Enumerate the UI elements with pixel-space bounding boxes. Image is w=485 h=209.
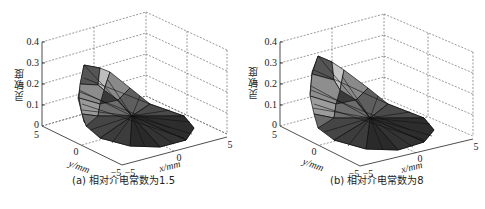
caption-a: (a) 相对介电常数为1.5 — [72, 172, 175, 187]
z-tick: 0.3 — [265, 57, 278, 68]
z-tick: 0.2 — [27, 78, 40, 89]
sensitivity-surface — [310, 56, 434, 150]
z-tick: 0.1 — [265, 99, 278, 110]
y-tick: 5 — [34, 129, 39, 140]
y-tick: 0 — [312, 146, 317, 157]
chart-panel-a: 0.4 0.3 0.2 0.1 0 5 0 −5 −5 0 5 y/mm x/m… — [0, 0, 242, 209]
z-tick: 0.4 — [27, 36, 40, 47]
z-tick: 0.1 — [27, 99, 40, 110]
z-axis-label: 灵敏度 — [12, 68, 27, 101]
z-axis-label: 灵敏度 — [246, 66, 261, 99]
x-tick: 5 — [228, 139, 233, 150]
x-tick: 5 — [474, 141, 479, 152]
chart-panel-b: 0.4 0.3 0.2 0.1 0 5 0 −5 −5 0 5 y/mm x/m… — [238, 0, 480, 209]
y-axis-label: y/mm — [300, 155, 325, 173]
z-tick: 0.3 — [27, 57, 40, 68]
y-tick: 0 — [74, 146, 79, 157]
caption-b: (b) 相对介电常数为8 — [330, 172, 424, 187]
sensitivity-surface — [78, 65, 194, 147]
z-tick: 0.4 — [265, 36, 278, 47]
z-tick: 0.2 — [265, 78, 278, 89]
y-tick: 5 — [272, 129, 277, 140]
